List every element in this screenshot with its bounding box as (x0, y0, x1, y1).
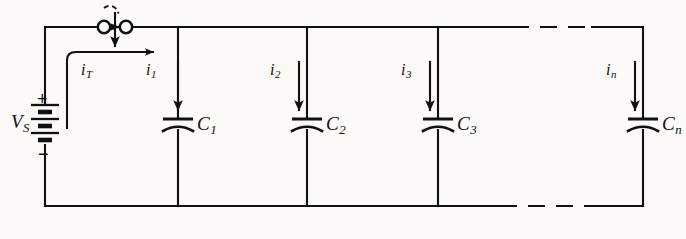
current-i3-sub: 3 (406, 68, 411, 80)
capacitor-label-cn: Cn (662, 114, 682, 137)
capacitor-c3-main: C (457, 113, 470, 134)
capacitor-cn-main: C (662, 113, 675, 134)
branch-cn (628, 27, 658, 206)
branch-c3 (423, 27, 453, 206)
switch-symbol[interactable] (98, 6, 132, 46)
current-label-i3: i3 (401, 62, 411, 80)
current-label-i2: i2 (270, 62, 280, 80)
source-plus-sign: + (37, 90, 48, 108)
current-label-in: in (606, 62, 616, 80)
current-arrow-it (67, 52, 153, 128)
current-i2-sub: 2 (275, 68, 280, 80)
capacitor-c2-sub: 2 (339, 122, 345, 137)
capacitor-label-c3: C3 (457, 114, 477, 137)
current-label-i1: i1 (146, 62, 156, 80)
capacitor-c2-main: C (326, 113, 339, 134)
capacitor-label-c2: C2 (326, 114, 346, 137)
current-in-main: i (606, 61, 610, 78)
switch-right-terminal (120, 21, 132, 33)
source-label: VS (11, 112, 30, 135)
branch-c1 (163, 27, 193, 206)
source-minus-sign: − (38, 145, 49, 163)
circuit-diagram: VS + − iT i1 i2 i3 in C1 C2 C3 Cn (0, 0, 686, 239)
branch-c2 (292, 27, 322, 206)
current-it-main: i (81, 61, 85, 78)
current-in-sub: n (611, 68, 616, 80)
current-it-sub: T (86, 68, 92, 80)
current-i3-main: i (401, 61, 405, 78)
current-i1-main: i (146, 61, 150, 78)
capacitor-c1-sub: 1 (210, 122, 216, 137)
capacitor-c3-sub: 3 (470, 122, 476, 137)
capacitor-c1-main: C (197, 113, 210, 134)
switch-closing-arc (104, 6, 119, 14)
current-i2-main: i (270, 61, 274, 78)
battery-symbol (31, 105, 59, 140)
capacitor-label-c1: C1 (197, 114, 217, 137)
switch-left-terminal (98, 21, 110, 33)
current-i1-sub: 1 (151, 68, 156, 80)
capacitor-cn-sub: n (675, 122, 681, 137)
source-label-main: V (11, 111, 23, 132)
current-label-it: iT (81, 62, 92, 80)
source-label-sub: S (23, 120, 29, 135)
